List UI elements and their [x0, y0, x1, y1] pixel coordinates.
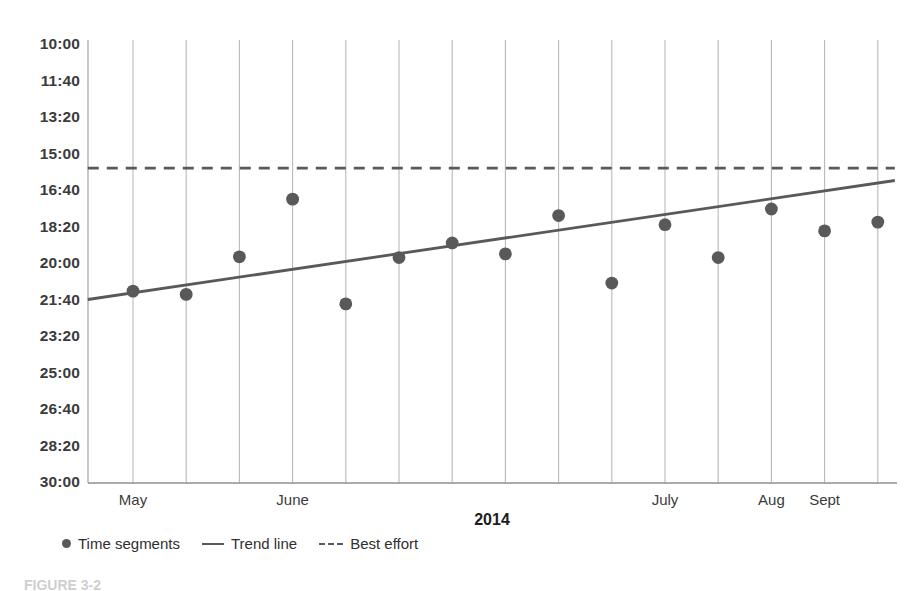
solid-line-marker-icon	[202, 543, 224, 545]
x-axis-tick-label: June	[276, 492, 309, 507]
legend-label-trend-line: Trend line	[231, 536, 297, 551]
y-axis-tick-labels: 10:0011:4013:2015:0016:4018:2020:0021:40…	[8, 0, 80, 591]
dot-marker-icon	[62, 539, 71, 548]
data-point-marker[interactable]	[127, 285, 140, 298]
x-axis-title: 2014	[474, 512, 510, 528]
legend-label-time-segments: Time segments	[78, 536, 180, 551]
y-axis-tick-label: 26:40	[8, 401, 80, 417]
legend-item-trend-line[interactable]: Trend line	[202, 536, 297, 551]
y-axis-tick-label: 21:40	[8, 292, 80, 308]
y-axis-tick-label: 15:00	[8, 146, 80, 162]
data-point-marker[interactable]	[818, 224, 831, 237]
y-axis-tick-label: 30:00	[8, 474, 80, 490]
x-axis-tick-label: July	[652, 492, 679, 507]
data-point-marker[interactable]	[605, 277, 618, 290]
y-axis-tick-label: 20:00	[8, 255, 80, 271]
x-axis-tick-label: Aug	[758, 492, 785, 507]
legend-label-best-effort: Best effort	[350, 536, 418, 551]
figure-container: 10:0011:4013:2015:0016:4018:2020:0021:40…	[0, 0, 912, 591]
y-axis-tick-label: 10:00	[8, 36, 80, 52]
y-axis-tick-label: 25:00	[8, 365, 80, 381]
chart-legend: Time segments Trend line Best effort	[62, 536, 418, 551]
data-point-marker[interactable]	[180, 288, 193, 301]
y-axis-tick-label: 13:20	[8, 109, 80, 125]
data-point-marker[interactable]	[712, 251, 725, 264]
x-axis-tick-label: Sept	[809, 492, 840, 507]
trend-line	[88, 181, 895, 300]
y-axis-tick-label: 28:20	[8, 438, 80, 454]
legend-item-best-effort[interactable]: Best effort	[319, 536, 418, 551]
gridlines-group	[133, 40, 878, 483]
data-point-marker[interactable]	[659, 218, 672, 231]
y-axis-tick-label: 23:20	[8, 328, 80, 344]
figure-caption: FIGURE 3-2	[24, 578, 101, 591]
y-axis-tick-label: 16:40	[8, 182, 80, 198]
data-point-marker[interactable]	[233, 250, 246, 263]
data-point-marker[interactable]	[499, 247, 512, 260]
data-point-marker[interactable]	[446, 237, 459, 250]
data-point-marker[interactable]	[765, 203, 778, 216]
data-point-marker[interactable]	[393, 251, 406, 264]
x-axis-tick-label: May	[119, 492, 147, 507]
data-point-marker[interactable]	[339, 297, 352, 310]
legend-item-time-segments[interactable]: Time segments	[62, 536, 180, 551]
data-point-marker[interactable]	[871, 216, 884, 229]
y-axis-tick-label: 18:20	[8, 219, 80, 235]
dashed-line-marker-icon	[319, 543, 343, 545]
data-point-marker[interactable]	[286, 193, 299, 206]
data-point-marker[interactable]	[552, 209, 565, 222]
y-axis-tick-label: 11:40	[8, 73, 80, 89]
